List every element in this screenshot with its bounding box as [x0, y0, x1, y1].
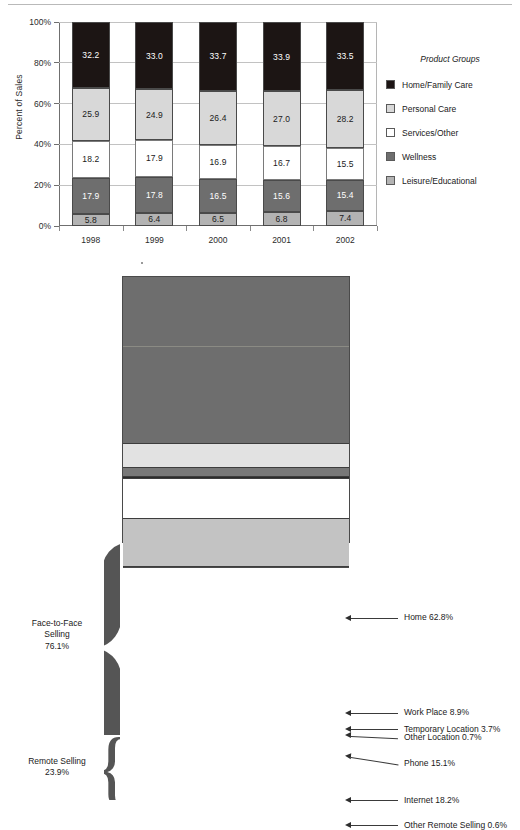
group-label-face-to-face-selling-line-1: Face-to-Face	[14, 618, 100, 630]
callout-arrow-icon	[345, 615, 351, 621]
bar-segment-wellness: 16.5	[199, 179, 237, 213]
bar-segment-leisure-educational: 7.4	[326, 211, 364, 226]
callout-other-location: Other Location 0.7%	[404, 732, 482, 742]
legend-swatch-icon	[386, 128, 395, 137]
callout-leader-line	[351, 800, 398, 801]
y-axis-tick	[54, 62, 59, 63]
x-axis-tick	[377, 226, 378, 231]
bar-1999: 6.417.817.924.933.0	[135, 22, 173, 226]
brace-remote-selling: {	[104, 736, 120, 800]
y-axis-tick-label: 60%	[34, 99, 51, 109]
callout-leader-line	[351, 618, 398, 619]
brace-face-to-face-selling: {	[104, 535, 120, 735]
group-label-remote-selling: Remote Selling23.9%	[14, 756, 100, 779]
y-axis-tick-label: 80%	[34, 58, 51, 68]
bar-segment-leisure-educational: 5.8	[72, 214, 110, 226]
bar-1998: 5.817.918.225.932.2	[72, 22, 110, 226]
legend-title: Product Groups	[394, 54, 506, 64]
callout-leader-line	[351, 757, 398, 765]
bar-segment-services-other: 16.7	[263, 146, 301, 180]
band-phone	[123, 479, 349, 519]
legend-item-services-other[interactable]: Services/Other	[386, 126, 518, 139]
bar-segment-personal-care: 26.4	[199, 91, 237, 145]
x-axis-tick	[250, 226, 251, 231]
bar-segment-wellness: 15.6	[263, 180, 301, 212]
band-home	[123, 277, 349, 443]
band-work-place	[123, 443, 349, 467]
band-separator	[123, 467, 349, 468]
bar-segment-home-family-care: 32.2	[72, 22, 110, 88]
stacked-bar-chart: Percent of Sales 0%20%40%60%80%100%5.817…	[0, 10, 520, 255]
band-separator	[123, 478, 349, 479]
y-axis-tick	[54, 144, 59, 145]
x-axis-tick	[59, 226, 60, 231]
x-axis-tick	[123, 226, 124, 231]
legend-item-wellness[interactable]: Wellness	[386, 150, 518, 163]
legend-item-leisure-educational[interactable]: Leisure/Educational	[386, 174, 518, 187]
bar-segment-wellness: 15.4	[326, 180, 364, 211]
y-axis-tick-label: 0%	[39, 221, 51, 231]
bar-2000: 6.516.516.926.433.7	[199, 22, 237, 226]
x-axis-tick-label: 1999	[145, 235, 164, 245]
x-axis-tick-label: 2001	[272, 235, 291, 245]
x-axis-tick	[186, 226, 187, 231]
band-separator	[123, 476, 349, 477]
bar-segment-personal-care: 25.9	[72, 88, 110, 141]
callout-arrow-icon	[345, 797, 351, 803]
callout-leader-line	[351, 713, 398, 714]
group-label-face-to-face-selling-line-3: 76.1%	[14, 641, 100, 653]
bar-segment-leisure-educational: 6.4	[135, 213, 173, 226]
chart-plot-area: 0%20%40%60%80%100%5.817.918.225.932.2199…	[59, 22, 377, 226]
callout-arrow-icon	[345, 732, 351, 738]
group-label-remote-selling-line-2: 23.9%	[14, 767, 100, 779]
y-axis-line	[59, 22, 60, 226]
group-label-remote-selling-line-1: Remote Selling	[14, 756, 100, 768]
callout-internet: Internet 18.2%	[404, 795, 459, 805]
callout-arrow-icon	[345, 822, 351, 828]
band-separator	[123, 566, 349, 567]
bar-segment-services-other: 18.2	[72, 141, 110, 178]
bar-segment-home-family-care: 33.0	[135, 22, 173, 89]
legend-item-label: Personal Care	[402, 104, 456, 114]
y-axis-tick-label: 20%	[34, 180, 51, 190]
band-internet	[123, 519, 349, 567]
callout-work-place: Work Place 8.9%	[404, 707, 469, 717]
y-axis-tick	[54, 103, 59, 104]
band-separator	[123, 518, 349, 519]
callout-home: Home 62.8%	[404, 612, 453, 622]
bar-segment-services-other: 16.9	[199, 145, 237, 179]
x-axis-tick-label: 2000	[209, 235, 228, 245]
bar-segment-leisure-educational: 6.8	[263, 212, 301, 226]
group-label-face-to-face-selling: Face-to-FaceSelling76.1%	[14, 618, 100, 653]
legend-swatch-icon	[386, 152, 395, 161]
group-label-face-to-face-selling-line-2: Selling	[14, 629, 100, 641]
chart-legend: Product Groups Home/Family CarePersonal …	[386, 54, 518, 198]
legend-item-home-family-care[interactable]: Home/Family Care	[386, 78, 518, 91]
callout-arrow-icon	[345, 753, 351, 759]
legend-item-personal-care[interactable]: Personal Care	[386, 102, 518, 115]
bar-2002: 7.415.415.528.233.5	[326, 22, 364, 226]
bar-segment-personal-care: 24.9	[135, 89, 173, 140]
bar-segment-personal-care: 28.2	[326, 90, 364, 148]
callout-leader-line	[351, 736, 398, 739]
callout-other-remote-selling: Other Remote Selling 0.6%	[404, 820, 507, 830]
legend-item-label: Home/Family Care	[402, 80, 473, 90]
x-axis-tick	[313, 226, 314, 231]
bar-segment-wellness: 17.8	[135, 177, 173, 213]
y-axis-tick-label: 40%	[34, 139, 51, 149]
callout-leader-line	[351, 825, 398, 826]
selling-channel-diagram: Home 62.8%Work Place 8.9%Temporary Locat…	[0, 258, 520, 563]
bar-segment-services-other: 15.5	[326, 148, 364, 180]
page-top-rule	[8, 4, 512, 5]
legend-swatch-icon	[386, 80, 395, 89]
legend-swatch-icon	[386, 176, 395, 185]
bar-segment-home-family-care: 33.9	[263, 22, 301, 91]
legend-item-label: Wellness	[402, 152, 436, 162]
y-axis-tick-label: 100%	[29, 17, 51, 27]
x-axis-tick-label: 1998	[81, 235, 100, 245]
bar-segment-wellness: 17.9	[72, 178, 110, 215]
callout-arrow-icon	[345, 710, 351, 716]
y-axis-title: Percent of Sales	[14, 52, 24, 162]
bar-segment-personal-care: 27.0	[263, 91, 301, 146]
